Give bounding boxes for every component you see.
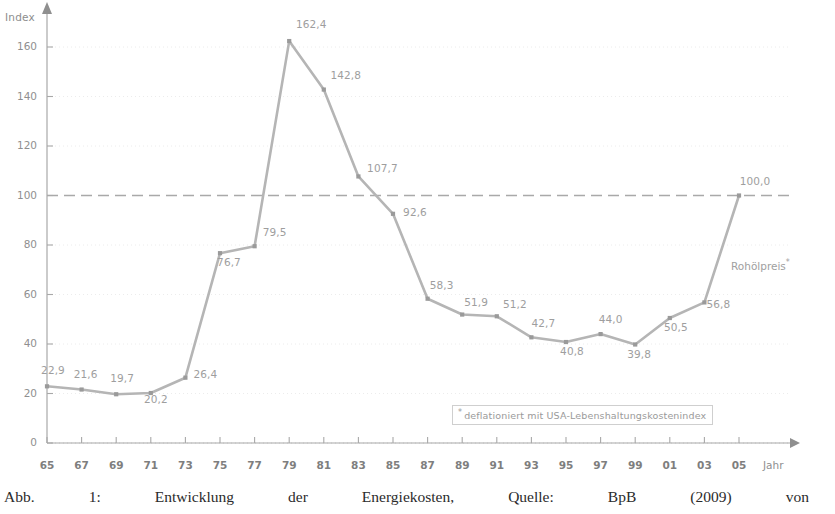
x-tick-label: 85 bbox=[386, 459, 401, 471]
caption-word: der bbox=[288, 488, 308, 506]
series-line-rohoelpreis bbox=[47, 41, 739, 394]
caption-word: Quelle: bbox=[508, 488, 554, 506]
data-point-label: 79,5 bbox=[263, 226, 287, 238]
x-tick-label: 77 bbox=[247, 459, 262, 471]
data-point-label: 58,3 bbox=[430, 279, 454, 291]
footnote-box: *deflationiert mit USA-Lebenshaltungskos… bbox=[452, 405, 713, 425]
y-axis-title: Index bbox=[5, 11, 35, 23]
footnote-marker: * bbox=[458, 408, 462, 417]
footnote-text: deflationiert mit USA-Lebenshaltungskost… bbox=[464, 410, 706, 421]
data-point-label: 39,8 bbox=[627, 348, 651, 360]
chart-container: Index 020406080100120140160 656769717375… bbox=[0, 0, 835, 480]
x-tick-label: 89 bbox=[455, 459, 470, 471]
x-tick-label: 97 bbox=[593, 459, 608, 471]
data-point-label: 21,6 bbox=[74, 368, 98, 380]
x-tick-label: 71 bbox=[143, 459, 158, 471]
series-label-rohoelpreis: Rohölpreis* bbox=[731, 258, 790, 272]
x-tick-label: 69 bbox=[109, 459, 124, 471]
x-axis-title: Jahr bbox=[763, 459, 784, 471]
x-tick-label: 03 bbox=[697, 459, 712, 471]
data-point-label: 92,6 bbox=[403, 206, 427, 218]
data-point-label: 100,0 bbox=[740, 175, 771, 187]
y-tick-label: 120 bbox=[0, 139, 37, 151]
x-tick-label: 73 bbox=[178, 459, 193, 471]
x-tick-label: 65 bbox=[40, 459, 55, 471]
y-tick-label: 80 bbox=[0, 238, 37, 250]
data-point-label: 40,8 bbox=[560, 345, 584, 357]
data-point-label: 20,2 bbox=[144, 393, 168, 405]
data-point-label: 50,5 bbox=[664, 321, 688, 333]
x-tick-label: 01 bbox=[662, 459, 677, 471]
caption-word: Energiekosten, bbox=[362, 488, 454, 506]
data-point-label: 142,8 bbox=[331, 69, 362, 81]
y-tick-label: 20 bbox=[0, 387, 37, 399]
data-point-label: 51,9 bbox=[464, 296, 488, 308]
data-point-label: 42,7 bbox=[532, 317, 556, 329]
axes bbox=[42, 2, 800, 448]
data-point-label: 22,9 bbox=[41, 364, 65, 376]
data-point-label: 162,4 bbox=[296, 18, 327, 30]
x-tick-label: 95 bbox=[559, 459, 574, 471]
caption-word: (2009) bbox=[690, 488, 731, 506]
x-tick-label: 93 bbox=[524, 459, 539, 471]
y-tick-label: 60 bbox=[0, 288, 37, 300]
y-tick-label: 100 bbox=[0, 189, 37, 201]
x-tick-label: 05 bbox=[732, 459, 747, 471]
data-point-label: 44,0 bbox=[599, 313, 623, 325]
data-point-label: 76,7 bbox=[217, 256, 241, 268]
x-tick-label: 75 bbox=[213, 459, 228, 471]
y-tick-label: 40 bbox=[0, 337, 37, 349]
caption-word: Entwicklung bbox=[155, 488, 234, 506]
x-tick-label: 67 bbox=[74, 459, 89, 471]
data-point-label: 26,4 bbox=[194, 368, 218, 380]
x-tick-label: 81 bbox=[316, 459, 331, 471]
x-tick-label: 79 bbox=[282, 459, 297, 471]
data-point-label: 51,2 bbox=[503, 298, 527, 310]
figure-caption: Abb.1:EntwicklungderEnergiekosten,Quelle… bbox=[0, 480, 835, 514]
x-tick-label: 99 bbox=[628, 459, 643, 471]
x-tick-label: 91 bbox=[489, 459, 504, 471]
gridlines bbox=[47, 47, 790, 443]
series-label-text: Rohölpreis bbox=[731, 260, 786, 272]
caption-word: Abb. bbox=[4, 488, 35, 506]
caption-word: von bbox=[786, 488, 809, 506]
data-point-label: 19,7 bbox=[110, 372, 134, 384]
y-tick-label: 160 bbox=[0, 40, 37, 52]
caption-word: BpB bbox=[608, 488, 636, 506]
series-label-footnote-marker: * bbox=[786, 258, 790, 267]
y-tick-label: 140 bbox=[0, 90, 37, 102]
data-point-label: 56,8 bbox=[707, 298, 731, 310]
x-tick-label: 83 bbox=[351, 459, 366, 471]
series-markers bbox=[45, 39, 741, 396]
x-tick-label: 87 bbox=[420, 459, 435, 471]
caption-word: 1: bbox=[89, 488, 101, 506]
y-tick-label: 0 bbox=[0, 436, 37, 448]
data-point-label: 107,7 bbox=[367, 162, 398, 174]
